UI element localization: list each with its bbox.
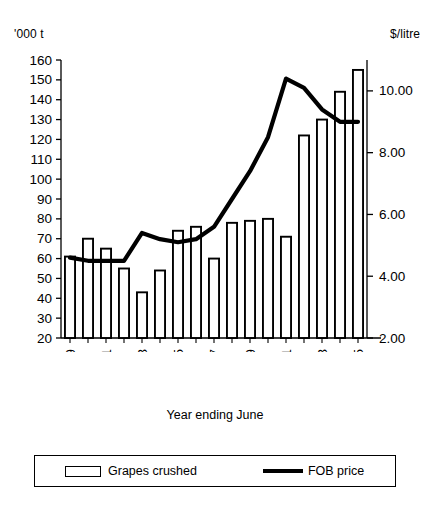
legend-label-grapes-crushed: Grapes crushed — [108, 464, 197, 478]
left-axis-tick-label: 130 — [29, 112, 52, 127]
bar — [317, 120, 327, 338]
bar-series-grapes-crushed — [65, 70, 363, 338]
bar — [263, 219, 273, 338]
left-axis-tick-label: 120 — [29, 132, 52, 147]
bar — [353, 70, 363, 338]
x-axis-tick-label: 1993 — [135, 349, 150, 352]
bar — [119, 269, 129, 339]
bar — [137, 292, 147, 338]
bar — [335, 92, 345, 338]
left-axis-tick-label: 160 — [29, 53, 52, 68]
x-axis-tick-label: 2001 — [279, 349, 294, 352]
x-axis-tick-label: 1995 — [171, 349, 186, 352]
x-axis-tick-label: 1999 — [243, 349, 258, 352]
bar — [173, 231, 183, 338]
right-axis-unit-label: $/litre — [390, 27, 420, 41]
legend-item-fob-price: FOB price — [263, 464, 364, 478]
x-axis-group: 198919911993199519971999200120032005 — [63, 338, 366, 352]
left-axis-tick-label: 40 — [37, 291, 52, 306]
bar — [191, 227, 201, 338]
bar — [83, 239, 93, 338]
x-axis-tick-label: 1997 — [207, 349, 222, 352]
bar — [281, 237, 291, 338]
right-axis-tick-label: 8.00 — [379, 145, 405, 160]
legend-label-fob-price: FOB price — [308, 464, 364, 478]
left-axis-tick-label: 50 — [37, 271, 52, 286]
left-axis-tick-label: 150 — [29, 72, 52, 87]
bar — [209, 259, 219, 338]
bar — [227, 223, 237, 338]
left-axis-tick-label: 60 — [37, 251, 52, 266]
legend-item-grapes-crushed: Grapes crushed — [65, 464, 197, 478]
right-axis-tick-label: 6.00 — [379, 207, 405, 222]
right-axis-tick-label: 2.00 — [379, 331, 405, 346]
left-axis-tick-label: 20 — [37, 331, 52, 346]
bar-swatch-icon — [65, 466, 101, 477]
right-axis-tick-label: 4.00 — [379, 269, 405, 284]
line-series-fob-price — [70, 79, 358, 261]
x-axis-title: Year ending June — [0, 408, 430, 422]
x-axis-tick-label: 2003 — [315, 349, 330, 352]
chart-legend: Grapes crushed FOB price — [34, 455, 396, 487]
bar — [245, 221, 255, 338]
left-axis-tick-label: 100 — [29, 172, 52, 187]
line-swatch-icon — [263, 469, 303, 474]
left-axis-tick-label: 30 — [37, 311, 52, 326]
x-axis-tick-label: 2005 — [351, 349, 366, 352]
bar — [155, 270, 165, 338]
left-axis-tick-label: 90 — [37, 192, 52, 207]
plot-area: 20304050607080901001101201301401501602.0… — [0, 52, 430, 352]
left-axis-unit-label: '000 t — [14, 27, 44, 41]
bar — [299, 135, 309, 338]
left-axis-tick-label: 80 — [37, 211, 52, 226]
left-axis-tick-label: 140 — [29, 92, 52, 107]
chart-svg: 20304050607080901001101201301401501602.0… — [0, 52, 430, 352]
right-axis-tick-label: 10.00 — [379, 83, 413, 98]
x-axis-tick-label: 1989 — [63, 349, 78, 352]
bar — [65, 257, 75, 338]
left-axis-tick-label: 70 — [37, 231, 52, 246]
x-axis-tick-label: 1991 — [99, 349, 114, 352]
left-axis-tick-label: 110 — [30, 152, 52, 167]
chart-figure: '000 t $/litre 2030405060708090100110120… — [0, 0, 430, 508]
